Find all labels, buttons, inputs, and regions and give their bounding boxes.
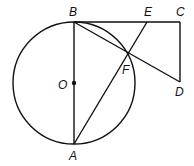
label-f: F — [122, 63, 130, 77]
segment-ae — [74, 22, 147, 144]
geometry-diagram: B E C D F O A — [0, 0, 194, 166]
label-c: C — [176, 5, 185, 19]
label-o: O — [58, 78, 67, 92]
label-d: D — [175, 85, 184, 99]
label-e: E — [144, 5, 153, 19]
label-a: A — [68, 149, 77, 163]
center-point-o — [72, 81, 76, 85]
label-b: B — [69, 5, 77, 19]
